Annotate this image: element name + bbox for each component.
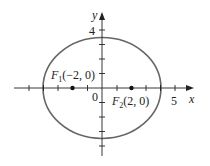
focus-2-label: F2(2, 0) (111, 94, 149, 110)
x-tick-label: 5 (171, 94, 177, 108)
y-axis-label: y (91, 8, 98, 22)
y-axis-arrow-icon (99, 12, 105, 20)
focus-1-point (70, 86, 74, 90)
focus-1-label: F1(−2, 0) (50, 68, 95, 84)
y-axis (99, 18, 105, 156)
focus-2-point (129, 86, 133, 90)
ellipse-diagram: y 4 0 5 x F1(−2, 0) F2(2, 0) (0, 0, 210, 166)
x-axis-arrow-icon (186, 85, 194, 91)
y-tick-label: 4 (89, 24, 95, 38)
origin-label: 0 (92, 90, 98, 104)
x-axis-label: x (188, 92, 195, 106)
